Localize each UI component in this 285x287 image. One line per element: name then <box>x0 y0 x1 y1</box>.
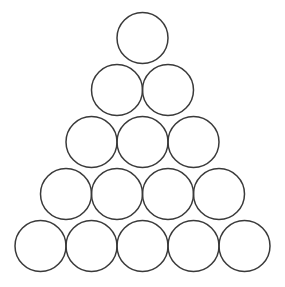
circle-r4c4 <box>194 169 245 220</box>
circle-stack-diagram <box>0 0 285 287</box>
circle-r2c1 <box>92 65 143 116</box>
circle-r5c4 <box>168 221 219 272</box>
figure-canvas <box>0 0 285 287</box>
circle-r5c1 <box>15 221 66 272</box>
circle-r1c1 <box>117 13 168 64</box>
circle-r5c3 <box>117 221 168 272</box>
circle-r4c1 <box>41 169 92 220</box>
circle-r2c2 <box>143 65 194 116</box>
circle-r5c2 <box>66 221 117 272</box>
circle-r3c1 <box>66 117 117 168</box>
circle-r4c3 <box>143 169 194 220</box>
circle-r5c5 <box>219 221 270 272</box>
circle-r3c3 <box>168 117 219 168</box>
circle-r3c2 <box>117 117 168 168</box>
circle-r4c2 <box>92 169 143 220</box>
